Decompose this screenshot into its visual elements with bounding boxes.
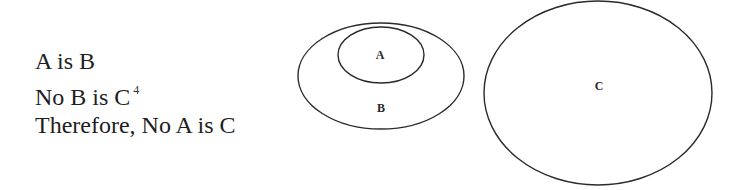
set-c-ellipse <box>484 1 712 185</box>
set-b: B <box>298 23 464 129</box>
set-a: A <box>338 27 424 83</box>
euler-diagram: B A C <box>0 0 742 190</box>
set-c: C <box>484 1 712 185</box>
set-a-label: A <box>376 48 385 62</box>
set-b-label: B <box>377 101 385 115</box>
syllogism-figure: A is B No B is C4 Therefore, No A is C B… <box>0 0 742 190</box>
set-c-label: C <box>595 79 604 93</box>
